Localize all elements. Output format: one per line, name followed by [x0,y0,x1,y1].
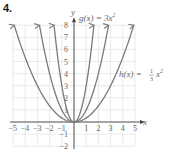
y-tick-label: 7 [64,33,68,42]
h-label-x: x2 [155,68,163,79]
x-tick-label: −4 [21,124,30,133]
h-curve-label: h(x) = [119,69,142,79]
y-axis-label: y [70,7,75,17]
x-tick-label: 3 [109,124,113,133]
x-tick-label: 1 [84,124,88,133]
parabola-chart: −5−4−3−2−112345−2−112345678 x y g(x) = 3… [0,0,173,154]
x-tick-label: 2 [96,124,100,133]
x-axis-label: x [142,117,147,127]
x-tick-label: 5 [133,124,137,133]
g-label-exp: 2 [113,12,116,18]
curves [9,23,134,122]
arrow-head-icon [9,24,15,29]
h-label-text: h(x) = [119,69,142,79]
y-tick-label: −1 [59,130,68,139]
y-tick-label: −2 [59,142,68,151]
x-tick-label: −2 [45,124,54,133]
h-label-fraction: 1 3 [149,68,154,82]
h-frac-den: 3 [150,76,153,82]
y-tick-label: 5 [64,58,68,67]
x-tick-label: 4 [121,124,125,133]
arrow-head-icon [34,24,39,29]
y-tick-label: 4 [64,70,68,79]
y-tick-label: 3 [64,82,68,91]
h-frac-num: 1 [150,68,153,74]
y-tick-label: 8 [64,21,68,30]
tick-labels: −5−4−3−2−112345−2−112345678 [9,21,138,151]
g-curve-label: g(x) = 3x2 [79,12,116,23]
y-tick-label: 6 [64,45,68,54]
g-label-text: g(x) = 3x [79,13,113,23]
x-tick-label: −5 [9,124,18,133]
x-tick-label: −3 [33,124,42,133]
